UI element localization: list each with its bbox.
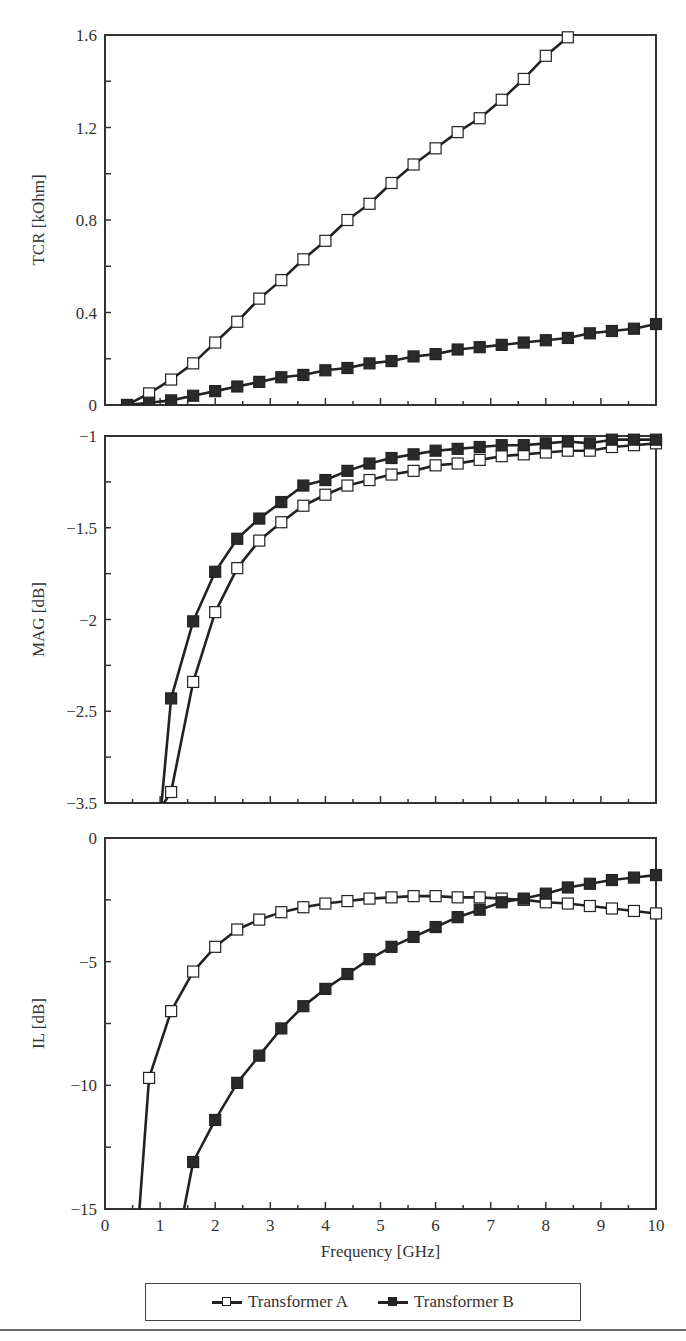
x-tick-label: 7 [486,1216,495,1235]
open-square-marker-icon [430,891,441,902]
filled-square-marker-icon [232,381,243,392]
y-axis-title: MAG [dB] [29,582,48,657]
filled-square-marker-icon [378,1296,408,1308]
filled-square-marker-icon [364,358,375,369]
filled-square-marker-icon [276,372,287,383]
filled-square-marker-icon [496,897,507,908]
open-square-marker-icon [606,903,617,914]
open-square-marker-icon [408,891,419,902]
open-square-marker-icon [430,460,441,471]
filled-square-marker-icon [166,693,177,704]
open-square-marker-icon [562,898,573,909]
filled-square-marker-icon [276,1023,287,1034]
open-square-marker-icon [474,892,485,903]
filled-square-marker-icon [540,438,551,449]
open-square-marker-icon [144,1072,155,1083]
filled-square-marker-icon [562,436,573,447]
filled-square-marker-icon [518,440,529,451]
open-square-marker-icon [364,475,375,486]
series-line-transformer-a [161,443,656,807]
filled-square-marker-icon [254,376,265,387]
legend: Transformer A Transformer B [145,1283,581,1321]
open-square-marker-icon [651,908,662,919]
filled-square-marker-icon [452,443,463,454]
open-square-marker-icon [210,337,221,348]
open-square-marker-icon [188,966,199,977]
filled-square-marker-icon [651,319,662,330]
open-square-marker-icon [298,902,309,913]
open-square-marker-icon [276,517,287,528]
open-square-marker-icon [430,143,441,154]
x-tick-label: 9 [597,1216,606,1235]
y-tick-label: −15 [70,1200,97,1219]
filled-square-marker-icon [188,390,199,401]
filled-square-marker-icon [386,453,397,464]
open-square-marker-icon [364,198,375,209]
filled-square-marker-icon [452,912,463,923]
open-square-marker-icon [452,127,463,138]
filled-square-marker-icon [254,513,265,524]
filled-square-marker-icon [320,983,331,994]
filled-square-marker-icon [364,458,375,469]
open-square-marker-icon [496,94,507,105]
filled-square-marker-icon [474,442,485,453]
series-line-transformer-b [183,875,656,1213]
filled-square-marker-icon [651,870,662,881]
open-square-marker-icon [518,73,529,84]
filled-square-marker-icon [474,904,485,915]
filled-square-marker-icon [298,480,309,491]
open-square-marker-icon [408,465,419,476]
filled-square-marker-icon [496,339,507,350]
plot-frame [105,838,656,1209]
open-square-marker-icon [342,896,353,907]
open-square-marker-icon [166,786,177,797]
open-square-marker-icon [386,469,397,480]
open-square-marker-icon [386,892,397,903]
filled-square-marker-icon [122,400,133,411]
filled-square-marker-icon [540,888,551,899]
legend-label-b: Transformer B [414,1292,514,1312]
y-tick-label: 0 [89,396,98,415]
y-axis-title: TCR [kOhm] [29,174,48,265]
filled-square-marker-icon [210,1114,221,1125]
x-tick-label: 4 [321,1216,330,1235]
filled-square-marker-icon [628,323,639,334]
filled-square-marker-icon [606,875,617,886]
filled-square-marker-icon [430,445,441,456]
filled-square-marker-icon [408,449,419,460]
open-square-marker-icon [210,607,221,618]
open-square-marker-icon [342,480,353,491]
filled-square-marker-icon [474,342,485,353]
filled-square-marker-icon [386,356,397,367]
y-tick-label: −2 [79,611,97,630]
filled-square-marker-icon [606,434,617,445]
legend-item-transformer-a: Transformer A [212,1292,348,1312]
legend-label-a: Transformer A [248,1292,348,1312]
x-tick-label: 8 [542,1216,551,1235]
filled-square-marker-icon [364,954,375,965]
x-axis-title: Frequency [GHz] [321,1242,440,1261]
series-line-transformer-b [161,440,656,807]
open-square-marker-icon [320,489,331,500]
open-square-marker-icon [540,50,551,61]
panel-middle: −1−1.5−2−2.5−3.5MAG [dB] [29,427,662,813]
filled-square-marker-icon [386,941,397,952]
open-square-marker-icon [562,32,573,43]
x-tick-label: 2 [211,1216,220,1235]
filled-square-marker-icon [188,1157,199,1168]
filled-square-marker-icon [144,397,155,408]
open-square-marker-icon [584,901,595,912]
open-square-marker-icon [210,941,221,952]
filled-square-marker-icon [166,395,177,406]
filled-square-marker-icon [430,349,441,360]
filled-square-marker-icon [232,1077,243,1088]
x-tick-label: 3 [266,1216,275,1235]
open-square-marker-icon [452,458,463,469]
x-tick-label: 1 [156,1216,165,1235]
filled-square-marker-icon [562,882,573,893]
panel-bottom: 0−5−10−15IL [dB]012345678910Frequency [G… [29,829,665,1261]
filled-square-marker-icon [628,434,639,445]
open-square-marker-icon [474,113,485,124]
filled-square-marker-icon [606,326,617,337]
open-square-marker-icon [232,316,243,327]
